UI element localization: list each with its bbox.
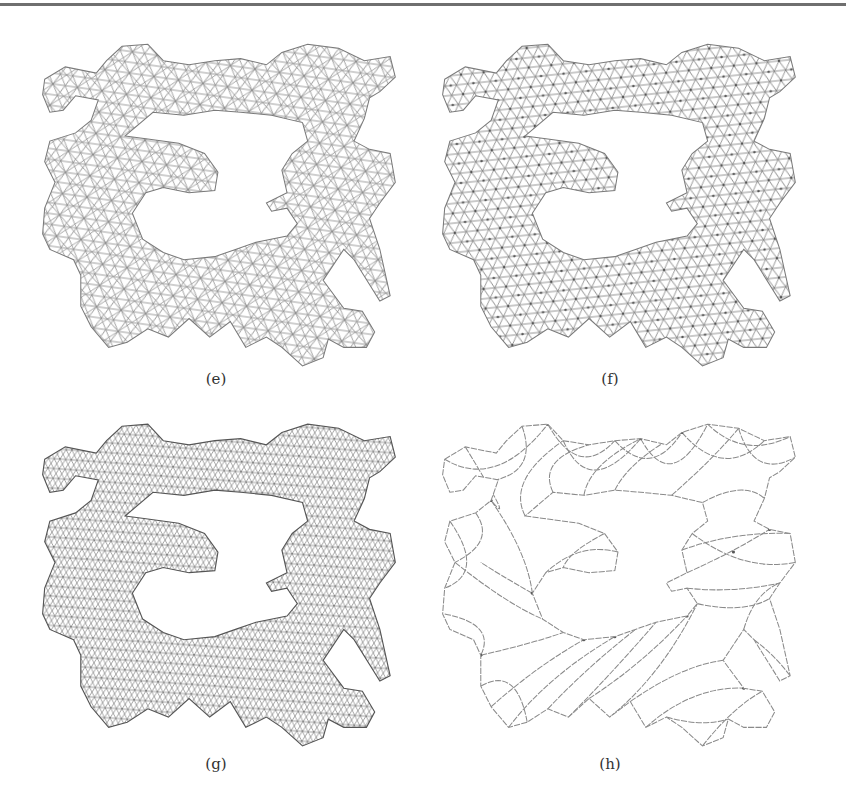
figure-panel-h: [430, 418, 810, 748]
caption-e: (e): [186, 370, 246, 388]
mesh-graphic-f: [430, 38, 810, 368]
mesh-graphic-h: [430, 418, 810, 748]
caption-h: (h): [580, 755, 640, 773]
caption-f: (f): [580, 370, 640, 388]
top-horizontal-rule: [0, 3, 846, 6]
figure-panel-f: [430, 38, 810, 368]
mesh-graphic-e: [30, 38, 410, 368]
mesh-graphic-g: [30, 418, 410, 748]
caption-g: (g): [186, 755, 246, 773]
figure-panel-e: [30, 38, 410, 368]
figure-panel-g: [30, 418, 410, 748]
